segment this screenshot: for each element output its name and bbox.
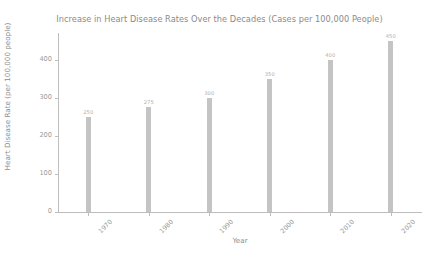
- chart-title: Increase in Heart Disease Rates Over the…: [0, 14, 439, 24]
- y-tick: 300: [0, 94, 58, 104]
- bar-value-label: 250: [73, 109, 103, 115]
- x-axis-ticks: 197019801990200020102020: [0, 213, 439, 256]
- plot-area: 250275300350400450: [58, 33, 421, 212]
- x-axis-title: Year: [58, 236, 422, 245]
- bar-group: 400: [328, 33, 333, 212]
- bar-group: 275: [146, 33, 151, 212]
- x-tick-mark: [391, 213, 392, 216]
- x-tick-mark: [270, 213, 271, 216]
- bar-value-label: 300: [194, 90, 224, 96]
- bar-group: 450: [388, 33, 393, 212]
- bar-group: 250: [86, 33, 91, 212]
- bar[interactable]: [328, 60, 333, 212]
- x-tick-mark: [149, 213, 150, 216]
- x-tick-mark: [330, 213, 331, 216]
- bar-value-label: 350: [255, 71, 285, 77]
- x-tick-label: 1970: [97, 218, 114, 235]
- y-tick-label: 100: [39, 169, 52, 177]
- bar[interactable]: [388, 41, 393, 212]
- x-tick-label: 1990: [218, 218, 235, 235]
- bar-value-label: 275: [134, 99, 164, 105]
- chart-figure: Increase in Heart Disease Rates Over the…: [0, 0, 439, 256]
- bar[interactable]: [86, 117, 91, 212]
- bar-value-label: 450: [376, 33, 406, 39]
- x-tick-label: 2000: [279, 218, 296, 235]
- x-tick-mark: [88, 213, 89, 216]
- bar-group: 350: [267, 33, 272, 212]
- y-tick: 400: [0, 56, 58, 66]
- x-tick-label: 2020: [400, 218, 417, 235]
- bar[interactable]: [146, 107, 151, 212]
- bar-value-label: 400: [315, 52, 345, 58]
- x-tick-mark: [209, 213, 210, 216]
- y-tick-label: 200: [39, 131, 52, 139]
- y-tick: 200: [0, 132, 58, 142]
- x-tick-label: 1980: [158, 218, 175, 235]
- bar-group: 300: [207, 33, 212, 212]
- x-tick-label: 2010: [339, 218, 356, 235]
- bar[interactable]: [207, 98, 212, 212]
- y-tick-label: 400: [39, 55, 52, 63]
- y-tick-label: 300: [39, 93, 52, 101]
- bar[interactable]: [267, 79, 272, 212]
- y-tick: 100: [0, 170, 58, 180]
